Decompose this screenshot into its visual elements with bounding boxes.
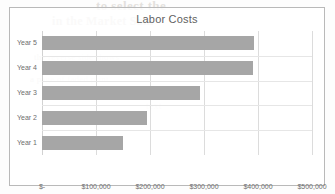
x-axis-tick-4: $400,000 [243,183,272,190]
bar-year-4[interactable] [42,61,253,75]
x-axis-tick-2: $200,000 [135,183,164,190]
chart-title: Labor Costs [10,13,324,25]
y-axis-label-year-3: Year 3 [17,86,37,100]
bar-year-1[interactable] [42,136,123,150]
x-axis-tick-1: $100,000 [81,183,110,190]
x-axis-tick-3: $300,000 [189,183,218,190]
bar-year-5[interactable] [42,36,254,50]
y-axis-label-year-2: Year 2 [17,111,37,125]
y-axis-label-year-4: Year 4 [17,61,37,75]
gridline-y-1 [42,56,312,57]
x-axis-tick-0: $- [39,183,45,190]
gridline-x-5 [312,31,313,155]
gridline-x-4 [258,31,259,155]
x-axis-tick-5: $500,000 [297,183,326,190]
gridline-y-4 [42,130,312,131]
gridline-y-3 [42,105,312,106]
bar-year-3[interactable] [42,86,200,100]
chart-container: Labor Costs Year 1Year 2Year 3Year 4Year… [9,7,325,186]
bar-year-2[interactable] [42,111,147,125]
chart-screenshot: to select the in the Market Sam the reve… [0,0,335,194]
y-axis-label-year-5: Year 5 [17,36,37,50]
gridline-y-2 [42,81,312,82]
plot-area: Year 1Year 2Year 3Year 4Year 5$-$100,000… [42,31,312,155]
y-axis-label-year-1: Year 1 [17,136,37,150]
